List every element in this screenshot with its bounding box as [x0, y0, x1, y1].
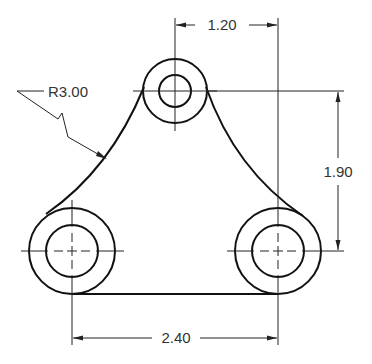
dimension-2-40: 2.40 — [73, 329, 277, 346]
arrow-right-icon — [267, 23, 277, 28]
bottom-left-boss — [21, 200, 124, 345]
radius-leader-r3: R3.00 — [17, 83, 107, 159]
arrow-down-icon — [336, 240, 341, 250]
part-drawing: 1.20 1.90 2.40 R3.00 — [0, 0, 372, 364]
arrow-left-icon — [73, 336, 83, 341]
dimension-1-20: 1.20 — [176, 16, 277, 33]
arrow-left-icon — [176, 23, 186, 28]
dim-label-2-40: 2.40 — [161, 329, 190, 346]
dim-label-1-20: 1.20 — [207, 16, 236, 33]
bottom-right-boss — [227, 18, 344, 345]
top-boss — [133, 18, 217, 131]
right-arc — [206, 87, 303, 216]
dim-label-1-90: 1.90 — [323, 163, 352, 180]
arrow-right-icon — [267, 336, 277, 341]
arrow-up-icon — [336, 92, 341, 102]
leader-zigzag — [17, 91, 103, 157]
dimension-1-90: 1.90 — [323, 92, 352, 250]
left-arc-r3 — [46, 87, 144, 214]
dim-label-r3-00: R3.00 — [48, 83, 88, 100]
